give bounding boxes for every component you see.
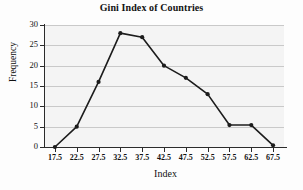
y-axis-tick-label: 15 [20,80,38,90]
x-axis-tick [120,148,121,152]
y-axis-tick [40,106,44,107]
y-axis-tick-label: 0 [20,141,38,151]
y-axis-tick-label: 25 [20,39,38,49]
y-axis-tick [40,66,44,67]
x-axis-tick [99,148,100,152]
x-axis-tick [77,148,78,152]
chart-title: Gini Index of Countries [0,2,303,13]
y-axis-tick [40,127,44,128]
y-axis-tick-label: 30 [20,19,38,29]
y-axis-tick-label: 20 [20,60,38,70]
y-axis-tick [40,86,44,87]
gridline [44,25,284,26]
y-axis-tick-label: 10 [20,100,38,110]
x-axis-tick [273,148,274,152]
gridline [44,106,284,107]
y-axis-tick [40,25,44,26]
gridline [44,86,284,87]
y-axis-line [44,24,45,148]
y-axis-tick [40,45,44,46]
x-axis-tick [186,148,187,152]
gridline [44,45,284,46]
x-axis-title: Index [44,168,287,179]
x-axis-tick [229,148,230,152]
y-axis-title: Frequency [8,27,18,97]
frequency-polygon-chart: Gini Index of Countries 051015202530 17.… [0,0,303,190]
x-axis-tick [142,148,143,152]
x-axis-tick [164,148,165,152]
gridline [44,66,284,67]
x-axis-tick [208,148,209,152]
x-axis-tick [55,148,56,152]
y-axis-tick-label: 5 [20,121,38,131]
x-axis-tick [251,148,252,152]
gridline [44,127,284,128]
y-axis-tick [40,147,44,148]
plot-area [44,25,284,148]
x-axis-tick-label: 67.5 [260,153,286,162]
